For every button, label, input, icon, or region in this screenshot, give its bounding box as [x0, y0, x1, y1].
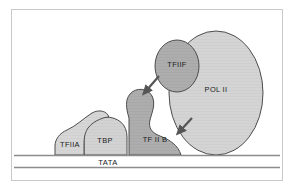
- shape-tfiif: TFIIF: [155, 40, 199, 92]
- tata-box-label: TATA: [98, 158, 118, 167]
- shape-tfiib-label: TF II B: [143, 135, 168, 144]
- figure-root: POL II TFIIF TF II B TBP TFIIA: [0, 0, 294, 191]
- shape-tfiia-label: TFIIA: [60, 140, 80, 149]
- shape-tfiif-label: TFIIF: [167, 60, 187, 69]
- arrow-tfiif-recruit: [146, 76, 159, 91]
- transcription-complex-diagram: POL II TFIIF TF II B TBP TFIIA: [0, 0, 294, 191]
- dna-strands: [14, 156, 280, 168]
- shape-tbp-label: TBP: [97, 136, 112, 145]
- shape-polii-label: POL II: [205, 85, 228, 94]
